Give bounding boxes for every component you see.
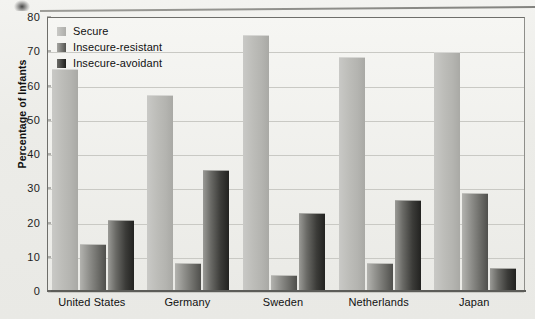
bar-germany-insecure-resistant [175, 263, 201, 292]
y-axis-tick-mark [47, 119, 51, 120]
bar-united-states-secure [52, 69, 78, 292]
y-axis-tick-label: 0 [6, 285, 40, 297]
bar-united-states-insecure-avoidant [108, 220, 134, 292]
x-axis-tick-label: Sweden [263, 296, 303, 308]
bar-netherlands-insecure-resistant [367, 263, 393, 292]
x-axis-tick-label: Japan [459, 296, 489, 308]
x-axis-tick-labels: United StatesGermanySwedenNetherlandsJap… [47, 296, 525, 316]
y-axis-tick-mark [47, 154, 51, 155]
gridline [48, 292, 524, 293]
bar-netherlands-insecure-avoidant [395, 200, 421, 292]
legend-swatch-insecure-avoidant [57, 59, 66, 68]
y-axis-tick-label: 10 [6, 251, 40, 263]
bar-sweden-secure [243, 35, 269, 292]
legend-item-secure: Secure [57, 24, 162, 38]
legend-swatch-insecure-resistant [57, 43, 66, 52]
legend-label-secure: Secure [73, 25, 108, 37]
bar-sweden-insecure-avoidant [299, 213, 325, 292]
scan-artifact-speck [14, 0, 30, 11]
y-axis-tick-labels: 01020304050607080 [0, 17, 40, 291]
legend-item-insecure-avoidant: Insecure-avoidant [57, 56, 162, 70]
legend-item-insecure-resistant: Insecure-resistant [57, 40, 162, 54]
y-axis-tick-mark [47, 291, 51, 292]
bar-group-netherlands [339, 18, 421, 292]
y-axis-tick-mark [47, 51, 51, 52]
y-axis-tick-label: 70 [6, 45, 40, 57]
y-axis-tick-mark [47, 256, 51, 257]
chart-legend: Secure Insecure-resistant Insecure-avoid… [57, 24, 162, 72]
y-axis-tick-label: 20 [6, 217, 40, 229]
bar-group-sweden [243, 18, 325, 292]
bar-germany-secure [147, 95, 173, 292]
legend-label-insecure-resistant: Insecure-resistant [73, 41, 162, 53]
y-axis-tick-label: 40 [6, 148, 40, 160]
y-axis-tick-mark [47, 188, 51, 189]
y-axis-tick-mark [47, 17, 51, 18]
x-axis-baseline [47, 290, 526, 292]
bar-germany-insecure-avoidant [203, 170, 229, 292]
y-axis-tick-mark [47, 222, 51, 223]
bar-japan-insecure-avoidant [490, 268, 516, 292]
bar-japan-insecure-resistant [462, 193, 488, 292]
bar-group-japan [434, 18, 516, 292]
legend-label-insecure-avoidant: Insecure-avoidant [73, 57, 162, 69]
y-axis-tick-label: 80 [6, 11, 40, 23]
y-axis-tick-mark [47, 85, 51, 86]
x-axis-tick-label: United States [58, 296, 125, 308]
y-axis-tick-label: 30 [6, 182, 40, 194]
bar-netherlands-secure [339, 57, 365, 292]
x-axis-tick-label: Germany [164, 296, 210, 308]
x-axis-tick-label: Netherlands [348, 296, 408, 308]
bar-japan-secure [434, 52, 460, 292]
legend-swatch-secure [57, 27, 66, 36]
y-axis-tick-label: 50 [6, 114, 40, 126]
y-axis-tick-label: 60 [6, 80, 40, 92]
bar-united-states-insecure-resistant [80, 244, 106, 292]
